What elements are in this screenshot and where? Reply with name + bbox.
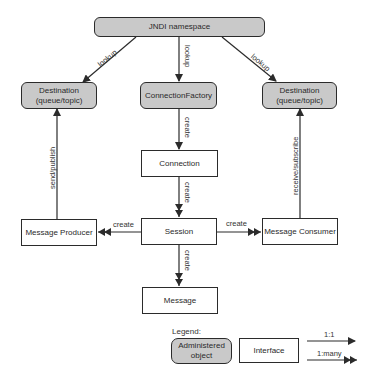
message-label: Message	[164, 296, 196, 306]
create-session-label: create	[183, 182, 192, 203]
connection-factory-label: ConnectionFactory	[145, 91, 212, 101]
legend-administered-line2: object	[191, 351, 212, 361]
connection-node: Connection	[141, 150, 218, 177]
create-producer-label: create	[113, 220, 134, 229]
send-publish-label: send/publish	[48, 147, 57, 189]
jndi-namespace-node: JNDI namespace	[94, 17, 265, 37]
legend-title: Legend:	[172, 327, 201, 336]
message-consumer-node: Message Consumer	[262, 218, 338, 245]
destination-right-line2: (queue/topic)	[276, 96, 323, 106]
session-label: Session	[165, 227, 193, 237]
legend-administered-line1: Administered	[178, 341, 225, 351]
receive-subscribe-label: receive/subscribe	[291, 137, 300, 195]
message-producer-node: Message Producer	[21, 219, 97, 246]
legend-one-to-many-label: 1:many	[317, 349, 342, 358]
destination-right-line1: Destination	[279, 86, 319, 96]
lookup-center-label: lookup	[183, 45, 192, 67]
destination-left-node: Destination (queue/topic)	[21, 82, 97, 109]
message-producer-label: Message Producer	[25, 228, 92, 238]
destination-right-node: Destination (queue/topic)	[262, 82, 337, 109]
destination-left-line2: (queue/topic)	[36, 96, 83, 106]
legend-administered-object: Administered object	[171, 338, 232, 364]
connection-label: Connection	[159, 159, 199, 169]
create-message-label: create	[183, 250, 192, 271]
session-node: Session	[141, 218, 217, 245]
jndi-namespace-label: JNDI namespace	[149, 22, 210, 32]
message-node: Message	[142, 287, 218, 314]
legend-one-to-one-label: 1:1	[324, 330, 334, 339]
create-consumer-label: create	[226, 219, 247, 228]
connection-factory-node: ConnectionFactory	[140, 82, 217, 109]
create-connection-label: create	[183, 117, 192, 138]
message-consumer-label: Message Consumer	[264, 227, 336, 237]
legend-interface: Interface	[239, 338, 299, 363]
legend-interface-label: Interface	[253, 346, 284, 356]
destination-left-line1: Destination	[39, 86, 79, 96]
